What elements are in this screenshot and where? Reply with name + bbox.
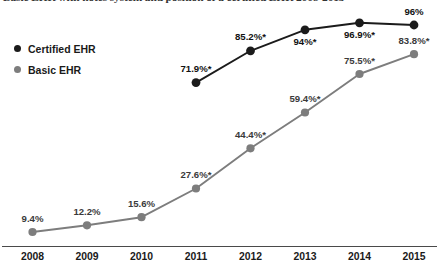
data-point-marker (355, 70, 363, 78)
data-point-label: 44.4%* (235, 129, 266, 140)
data-point-marker (192, 184, 200, 192)
chart-container: Basic EHR with notes system and position… (0, 0, 439, 266)
data-point-label: 85.2%* (235, 31, 266, 42)
x-axis-tick-label: 2014 (348, 251, 371, 262)
data-point-label: 12.2% (73, 206, 100, 217)
data-point-marker (137, 213, 145, 221)
data-point-marker (246, 144, 254, 152)
x-axis-tick-label: 2010 (130, 251, 153, 262)
x-axis-tick-label: 2012 (239, 251, 262, 262)
data-point-marker (192, 78, 201, 87)
x-axis-tick-label: 2013 (293, 251, 316, 262)
data-point-marker (301, 25, 310, 34)
series-markers-certified-ehr (192, 18, 419, 87)
data-point-label: 83.8%* (399, 35, 430, 46)
data-point-marker (83, 221, 91, 229)
data-point-label: 9.4% (22, 213, 44, 224)
data-point-marker (246, 46, 255, 55)
data-point-label: 96.9%* (344, 29, 375, 40)
x-axis-tick-label: 2009 (75, 251, 98, 262)
data-point-label: 94%* (294, 36, 317, 47)
data-point-label: 27.6%* (181, 169, 212, 180)
data-point-marker (355, 18, 364, 27)
x-axis-tick-label: 2008 (21, 251, 44, 262)
data-point-marker (410, 21, 419, 30)
data-point-label: 59.4%* (290, 93, 321, 104)
x-axis-line (2, 246, 437, 247)
data-point-marker (28, 228, 36, 236)
x-axis-tick-label: 2015 (402, 251, 425, 262)
data-point-label: 71.9%* (181, 63, 212, 74)
data-point-marker (410, 50, 418, 58)
data-point-label: 96% (404, 6, 423, 17)
data-point-marker (301, 108, 309, 116)
data-point-label: 15.6% (128, 198, 155, 209)
x-axis-tick-label: 2011 (185, 251, 208, 262)
data-point-label: 75.5%* (344, 55, 375, 66)
